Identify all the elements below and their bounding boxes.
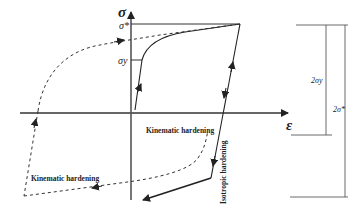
two-sigma-y-label: 2σy [311, 76, 323, 85]
two-sigma-star-label: 2σ* [333, 105, 345, 114]
isotropic-reverse-branch [143, 178, 211, 200]
kinematic-left-branch [24, 111, 38, 196]
sigma-axis-label: σ [118, 4, 127, 20]
sigma-y-label: σy [118, 55, 128, 66]
kinematic-lower-branch [24, 130, 208, 196]
unload-up-arrow-icon [231, 62, 233, 72]
unload-down-arrow-icon [224, 88, 226, 98]
kinematic-hardening-label-center: Kinematic hardening [146, 126, 214, 135]
kinematic-upper-branch [38, 24, 240, 111]
axes [20, 12, 288, 200]
hysteresis-diagram: σ ε σ* σy Kinematic hardening Kinematic … [0, 0, 360, 220]
isotropic-hardening-label: Isotropic hardening [219, 140, 228, 204]
sigma-star-label: σ* [119, 20, 129, 31]
epsilon-axis-label: ε [286, 117, 293, 133]
kinematic-hardening-label-left: Kinematic hardening [31, 174, 99, 183]
